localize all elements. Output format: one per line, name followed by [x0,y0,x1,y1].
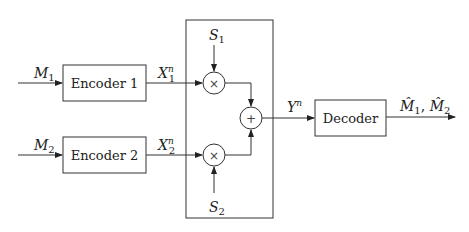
encoder-2-block: Encoder 2 [63,137,146,173]
channel-output: Yn [262,98,314,118]
estimates-label: M̂1, M̂2 [399,97,450,116]
multiply-icon: × [209,77,219,91]
mult1-to-adder [225,83,251,106]
x2-label: Xn2 [157,136,175,156]
encoder-1-output: Xn1 [146,64,202,84]
m1-label: M1 [33,65,55,83]
encoder-1-label: Encoder 1 [71,76,139,91]
input-m2: M2 [18,137,62,155]
decoder-label: Decoder [323,111,379,126]
y-label: Yn [287,98,302,115]
state-s2: S2 [209,167,225,217]
state-s1: S1 [209,27,225,71]
multiply-icon: × [209,149,219,163]
m2-label: M2 [33,137,55,155]
decoder-block: Decoder [315,100,386,136]
multiplier-2: × [203,144,225,166]
mult2-to-adder [225,130,251,155]
adder: + [240,107,262,129]
s2-label: S2 [209,199,225,217]
encoder-1-block: Encoder 1 [63,65,146,101]
input-m1: M1 [18,65,62,83]
encoder-2-label: Encoder 2 [71,148,139,163]
plus-icon: + [246,112,256,126]
encoder-2-output: Xn2 [146,136,202,156]
multiplier-1: × [203,72,225,94]
s1-label: S1 [209,27,225,45]
decoder-output: M̂1, M̂2 [386,97,455,117]
channel-block-diagram: M1 Encoder 1 Xn1 M2 Encoder 2 Xn2 S1 × × [0,0,469,232]
x1-label: Xn1 [157,64,175,84]
